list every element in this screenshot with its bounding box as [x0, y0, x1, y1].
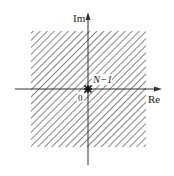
z-plane-diagram: Im Re 0 N−1: [0, 0, 174, 176]
real-axis-label: Re: [148, 93, 160, 105]
imaginary-axis-arrow-icon: [86, 12, 91, 20]
origin-label: 0: [78, 93, 83, 103]
pole-star-icon: [84, 85, 92, 93]
imaginary-axis-label: Im: [73, 12, 86, 24]
real-axis-arrow-icon: [154, 87, 162, 92]
pole-order-label: N−1: [92, 74, 112, 85]
